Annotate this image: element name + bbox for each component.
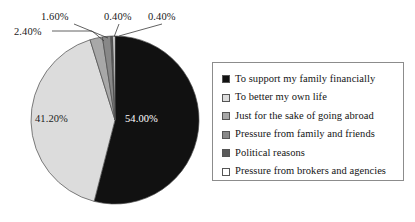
pie-label-family-pressure: 1.60% xyxy=(41,11,69,22)
legend-item-family-pressure: Pressure from family and friends xyxy=(222,126,403,144)
legend-label: Pressure from brokers and agencies xyxy=(235,166,386,177)
pie-label-support-family: 54.00% xyxy=(125,113,158,124)
legend-swatch-icon xyxy=(222,168,230,176)
legend-label: Just for the sake of going abroad xyxy=(235,111,374,122)
legend-item-support-family: To support my family financially xyxy=(222,70,403,88)
leader-line-political xyxy=(114,24,119,37)
legend-item-brokers: Pressure from brokers and agencies xyxy=(222,163,403,181)
legend-label: Political reasons xyxy=(235,148,305,159)
pie-label-better-life: 41.20% xyxy=(35,113,68,124)
legend-swatch-icon xyxy=(222,112,230,120)
legend-label: Pressure from family and friends xyxy=(235,129,375,140)
legend-label: To better my own life xyxy=(235,92,327,103)
legend-item-political: Political reasons xyxy=(222,144,403,162)
legend-swatch-icon xyxy=(222,94,230,102)
legend-label: To support my family financially xyxy=(235,74,375,85)
legend-swatch-icon xyxy=(222,149,230,157)
pie-chart-area: 2.40% 1.60% 0.40% 0.40% 54.00% 41.20% xyxy=(0,0,215,222)
legend-swatch-icon xyxy=(222,75,230,83)
pie-label-brokers: 0.40% xyxy=(148,11,176,22)
pie-chart-figure: 2.40% 1.60% 0.40% 0.40% 54.00% 41.20% To… xyxy=(0,0,415,222)
legend-item-going-abroad: Just for the sake of going abroad xyxy=(222,107,403,125)
pie-label-going-abroad: 2.40% xyxy=(14,26,42,37)
pie-label-political: 0.40% xyxy=(104,11,132,22)
leader-line-brokers xyxy=(119,24,162,36)
chart-legend: To support my family financially To bett… xyxy=(212,62,404,181)
legend-item-better-life: To better my own life xyxy=(222,89,403,107)
legend-swatch-icon xyxy=(222,131,230,139)
